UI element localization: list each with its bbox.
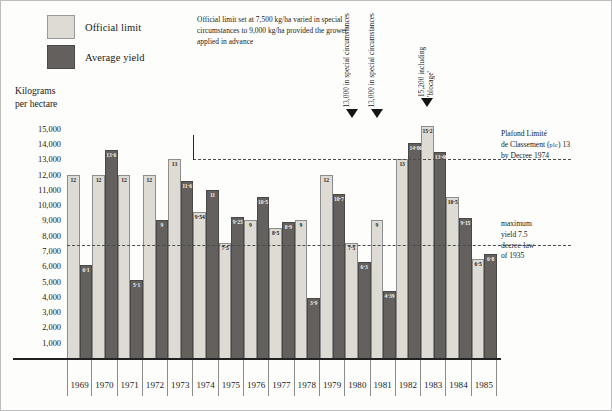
bar-official-limit-1981: 9 bbox=[371, 220, 384, 358]
plot-area: 126·11213·6125·11291311·69·54117·59·2591… bbox=[67, 121, 497, 358]
bar-average-yield-1983: 13·46 bbox=[434, 152, 447, 358]
y-axis-tick-label: 5,000 bbox=[42, 277, 61, 286]
bar-value-label: 9 bbox=[372, 223, 383, 229]
max-note-line1: maximum bbox=[501, 219, 609, 230]
bar-official-limit-1969: 12 bbox=[67, 175, 80, 358]
y-axis-tick-label: 2,000 bbox=[42, 323, 61, 332]
callout-arrow-down-icon bbox=[371, 109, 383, 118]
bar-average-yield-1981: 4·39 bbox=[383, 291, 396, 358]
bar-average-yield-1979: 10·7 bbox=[333, 194, 346, 358]
y-axis-tick-label: 3,000 bbox=[42, 308, 61, 317]
reference-line-plc-13 bbox=[193, 159, 571, 160]
legend-item-official-limit: Official limit bbox=[47, 15, 197, 39]
bar-value-label: 13·6 bbox=[106, 153, 117, 159]
y-axis: 15,00014,00013,00012,00011,00010,0009,00… bbox=[1, 121, 67, 358]
bar-average-yield-1972: 9 bbox=[156, 220, 169, 358]
year-label: 1975 bbox=[222, 380, 240, 390]
bar-value-label: 9 bbox=[245, 223, 256, 229]
y-axis-tick-label: 10,000 bbox=[38, 201, 61, 210]
official-limit-note: Official limit set at 7,500 kg/ha varied… bbox=[197, 15, 367, 48]
bar-official-limit-1982: 13 bbox=[396, 159, 409, 358]
y-axis-tick-label: 4,000 bbox=[42, 292, 61, 301]
bar-value-label: 4·39 bbox=[384, 294, 395, 300]
callout-text: 13,000 in special circumstances bbox=[368, 13, 377, 108]
bar-value-label: 14·06 bbox=[409, 146, 420, 152]
y-axis-tick-label: 11,000 bbox=[38, 185, 61, 194]
bar-average-yield-1982: 14·06 bbox=[408, 143, 421, 358]
bar-average-yield-1969: 6·1 bbox=[80, 265, 93, 358]
year-cell-1977: 1977 bbox=[269, 360, 294, 396]
bar-value-label: 7·5 bbox=[346, 246, 357, 252]
year-label: 1976 bbox=[247, 380, 265, 390]
callout-text: 13,000 in special circumstances bbox=[343, 13, 352, 108]
legend: Official limit Average yield bbox=[47, 15, 197, 75]
bar-value-label: 6·3 bbox=[359, 265, 370, 271]
bar-official-limit-1978: 9 bbox=[295, 220, 308, 358]
y-axis-tick-label: 1,000 bbox=[42, 338, 61, 347]
year-cell-1983: 1983 bbox=[421, 360, 446, 396]
bar-average-yield-1973: 11·6 bbox=[181, 181, 194, 358]
y-axis-tick-label: 12,000 bbox=[38, 170, 61, 179]
bar-value-label: 8·9 bbox=[283, 225, 294, 231]
bars-container: 126·11213·6125·11291311·69·54117·59·2591… bbox=[67, 121, 497, 358]
bar-value-label: 13 bbox=[397, 162, 408, 168]
bar-value-label: 6·8 bbox=[485, 257, 496, 263]
year-label: 1984 bbox=[449, 380, 467, 390]
year-label: 1979 bbox=[323, 380, 341, 390]
bar-average-yield-1984: 9·15 bbox=[459, 218, 472, 358]
bar-value-label: 12 bbox=[144, 178, 155, 184]
y-axis-title: Kilograms per hectare bbox=[15, 85, 57, 111]
year-cell-1979: 1979 bbox=[320, 360, 345, 396]
bar-official-limit-1980: 7·5 bbox=[345, 243, 358, 358]
bar-value-label: 5·1 bbox=[131, 283, 142, 289]
plc-note-line2: de Classement (plc) 13 bbox=[501, 140, 609, 151]
callout-arrow-down-icon bbox=[421, 98, 433, 107]
year-label: 1972 bbox=[146, 380, 164, 390]
year-label: 1974 bbox=[196, 380, 214, 390]
bar-value-label: 9·25 bbox=[232, 220, 243, 226]
legend-item-average-yield: Average yield bbox=[47, 45, 197, 69]
bar-value-label: 10·7 bbox=[334, 197, 345, 203]
bar-official-limit-1985: 6·5 bbox=[472, 259, 485, 358]
plc-note-line2-post: ) 13 bbox=[558, 140, 570, 149]
bar-average-yield-1971: 5·1 bbox=[130, 280, 143, 358]
year-label: 1978 bbox=[298, 380, 316, 390]
bar-value-label: 11 bbox=[207, 193, 218, 199]
year-label: 1981 bbox=[373, 380, 391, 390]
bar-value-label: 10·5 bbox=[258, 200, 269, 206]
year-label: 1980 bbox=[348, 380, 366, 390]
bar-average-yield-1970: 13·6 bbox=[105, 150, 118, 358]
y-axis-tick-label: 14,000 bbox=[38, 139, 61, 148]
bar-official-limit-1975: 7·5 bbox=[219, 243, 232, 358]
plc-note-line2-pre: de Classement ( bbox=[501, 140, 550, 149]
bar-value-label: 3·9 bbox=[308, 301, 319, 307]
bar-value-label: 7·5 bbox=[220, 246, 231, 252]
plc-line-start-tick bbox=[193, 135, 194, 160]
year-cell-1974: 1974 bbox=[193, 360, 218, 396]
plc-abbreviation: plc bbox=[550, 141, 558, 148]
bar-official-limit-1979: 12 bbox=[320, 175, 333, 358]
bar-value-label: 10·5 bbox=[447, 200, 458, 206]
bar-official-limit-1971: 12 bbox=[118, 175, 131, 358]
bar-average-yield-1975: 9·25 bbox=[231, 217, 244, 358]
maximum-yield-note: maximum yield 7.5 decree-law of 1935 bbox=[501, 219, 609, 262]
x-axis-year-labels: 1969197019711972197319741975197619771978… bbox=[67, 360, 497, 396]
bar-value-label: 11·6 bbox=[182, 184, 193, 190]
bar-value-label: 9 bbox=[157, 223, 168, 229]
year-label: 1971 bbox=[121, 380, 139, 390]
bar-value-label: 8·5 bbox=[270, 231, 281, 237]
bar-average-yield-1985: 6·8 bbox=[484, 254, 497, 358]
year-label: 1982 bbox=[399, 380, 417, 390]
year-cell-1975: 1975 bbox=[219, 360, 244, 396]
callout-1981: 13,000 in special circumstances bbox=[368, 13, 386, 118]
bar-value-label: 12 bbox=[321, 178, 332, 184]
year-cell-1980: 1980 bbox=[345, 360, 370, 396]
bar-official-limit-1977: 8·5 bbox=[269, 228, 282, 358]
bar-value-label: 15·2 bbox=[422, 129, 433, 135]
year-cell-1985: 1985 bbox=[472, 360, 497, 396]
year-cell-1970: 1970 bbox=[92, 360, 117, 396]
bar-official-limit-1973: 13 bbox=[168, 159, 181, 358]
bar-average-yield-1978: 3·9 bbox=[307, 298, 320, 358]
bar-value-label: 6·5 bbox=[473, 262, 484, 268]
legend-swatch-average-yield bbox=[47, 45, 75, 69]
